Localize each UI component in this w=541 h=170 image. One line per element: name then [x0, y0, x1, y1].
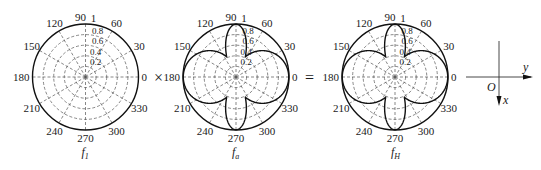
angle-tick-label: 30	[134, 40, 146, 52]
angle-tick-label: 270	[387, 132, 404, 144]
polar-plot-fa: 03060901201501802102402703003300.20.40.6…	[164, 11, 299, 161]
angle-tick-label: 180	[13, 71, 30, 83]
angle-tick-label: 30	[443, 40, 455, 52]
angle-tick-label: 300	[418, 125, 435, 137]
plot-caption: f1	[82, 145, 89, 161]
angle-tick-label: 0	[142, 71, 148, 83]
radial-tick-label: 0.4	[90, 47, 102, 57]
angle-tick-label: 120	[197, 17, 214, 29]
radial-tick-label: 1	[400, 12, 406, 24]
radial-tick-label: 0.4	[399, 47, 411, 57]
radial-tick-label: 1	[91, 12, 97, 24]
grid-spoke	[86, 77, 132, 104]
angle-tick-label: 240	[46, 125, 63, 137]
angle-tick-label: 30	[284, 40, 296, 52]
grid-spoke	[86, 77, 113, 123]
plot-caption-subscript: 1	[85, 152, 89, 161]
angle-tick-label: 150	[24, 40, 41, 52]
angle-tick-label: 240	[197, 125, 214, 137]
grid-spoke	[40, 77, 86, 104]
angle-tick-label: 150	[333, 40, 350, 52]
angle-tick-label: 330	[131, 102, 148, 114]
plot-caption: fH	[391, 145, 401, 161]
radial-tick-label: 0.8	[401, 26, 413, 36]
equals-operator: =	[305, 69, 314, 86]
angle-tick-label: 0	[451, 71, 457, 83]
polar-plot-fH: 03060901201501802102402703003300.20.40.6…	[323, 11, 458, 161]
angle-tick-label: 60	[421, 17, 433, 29]
pattern-multiplication-diagram: 03060901201501802102402703003300.20.40.6…	[0, 0, 541, 170]
angle-tick-label: 330	[281, 102, 298, 114]
angle-tick-label: 150	[174, 40, 191, 52]
angle-tick-label: 120	[46, 17, 63, 29]
x-axis-label: x	[502, 93, 509, 107]
angle-tick-label: 120	[356, 17, 373, 29]
angle-tick-label: 240	[356, 125, 373, 137]
radial-tick-label: 1	[241, 12, 247, 24]
radial-tick-label: 0.4	[240, 47, 252, 57]
angle-tick-label: 330	[440, 102, 457, 114]
times-operator: ×	[154, 69, 163, 86]
angle-tick-label: 270	[77, 132, 94, 144]
angle-tick-label: 90	[385, 11, 397, 23]
radial-tick-label: 0.2	[399, 57, 410, 67]
y-axis-arrow-icon	[523, 75, 533, 80]
angle-tick-label: 0	[292, 71, 298, 83]
grid-spoke	[59, 77, 86, 123]
angle-tick-label: 300	[108, 125, 125, 137]
radial-tick-label: 0.6	[401, 36, 413, 46]
radial-tick-label: 0.6	[92, 36, 104, 46]
angle-tick-label: 60	[262, 17, 274, 29]
grid-spoke	[59, 31, 86, 77]
plot-caption: fa	[232, 145, 239, 161]
radial-tick-label: 0.8	[92, 26, 104, 36]
angle-tick-label: 60	[111, 17, 123, 29]
y-axis-label: y	[522, 60, 529, 74]
plot-caption-subscript: H	[393, 152, 401, 161]
angle-tick-label: 210	[333, 102, 350, 114]
plot-caption-subscript: a	[235, 152, 239, 161]
radial-tick-label: 0.6	[242, 36, 254, 46]
x-axis-arrow-icon	[497, 96, 502, 106]
radial-tick-label: 0.8	[242, 26, 254, 36]
coordinate-axes: y x O	[466, 41, 533, 107]
angle-tick-label: 180	[323, 71, 340, 83]
angle-tick-label: 270	[228, 132, 245, 144]
origin-label: O	[487, 80, 496, 94]
radial-tick-label: 0.2	[240, 57, 251, 67]
radial-tick-label: 0.2	[90, 57, 101, 67]
angle-tick-label: 180	[164, 71, 181, 83]
angle-tick-label: 210	[24, 102, 41, 114]
angle-tick-label: 300	[259, 125, 276, 137]
angle-tick-label: 210	[174, 102, 191, 114]
polar-plot-f1: 03060901201501802102402703003300.20.40.6…	[13, 11, 148, 161]
angle-tick-label: 90	[75, 11, 87, 23]
angle-tick-label: 90	[226, 11, 238, 23]
grid-spoke	[40, 51, 86, 78]
